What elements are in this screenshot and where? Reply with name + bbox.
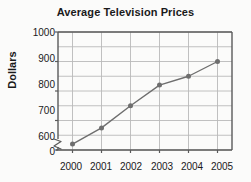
plot-area <box>0 0 251 182</box>
gridlines <box>58 32 232 150</box>
chart-figure: Average Television Prices Dollars 1000 9… <box>0 0 251 182</box>
data-line <box>73 62 218 145</box>
axis-break-icon <box>54 139 61 149</box>
